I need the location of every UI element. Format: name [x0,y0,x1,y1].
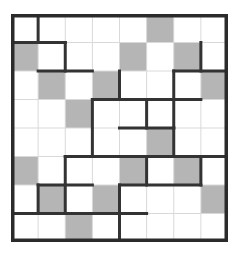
shaded-cell [120,157,147,186]
shaded-cell [11,43,38,72]
shaded-cell [92,185,119,214]
shaded-cell [65,214,92,243]
shaded-cell [38,71,65,100]
shaded-cell [11,157,38,186]
shaded-cell [65,100,92,129]
shaded-cell [147,128,174,157]
shaded-cell [92,71,119,100]
shaded-cell [174,157,201,186]
shaded-cell [38,185,65,214]
shaded-cell [201,71,228,100]
puzzle-grid-container [11,14,228,242]
shaded-cell [201,185,228,214]
shaded-cell [120,43,147,72]
shaded-cell [147,14,174,43]
shaded-cell [174,43,201,72]
puzzle-grid[interactable] [11,14,228,242]
